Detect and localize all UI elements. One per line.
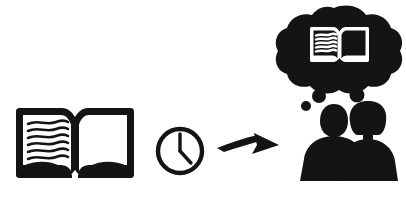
people-with-thought-cloud — [278, 4, 402, 186]
open-book-icon — [14, 104, 136, 186]
arrow-right-icon — [216, 132, 280, 166]
clock-hour-hand — [180, 151, 191, 163]
thought-cloud-book-icon — [310, 27, 369, 62]
pictogram-scene: An open book, then a clock, then an arro… — [0, 0, 406, 204]
clock-icon — [152, 123, 208, 179]
